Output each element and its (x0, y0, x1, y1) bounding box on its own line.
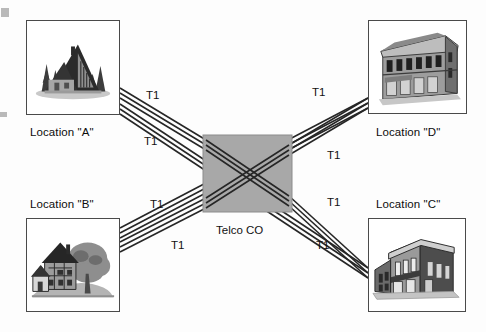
t1-label-a-c-2: T1 (316, 239, 329, 251)
classical-office-building-icon (369, 21, 466, 113)
scan-artifact-top (1, 8, 9, 17)
t1-label-hub-d: T1 (312, 86, 325, 98)
t1-label-b-hub: T1 (150, 198, 163, 210)
location-a-box[interactable] (26, 20, 120, 115)
cottage-with-tree-icon (27, 219, 119, 311)
location-b-box[interactable] (26, 218, 120, 312)
t1-label-a-hub: T1 (146, 89, 159, 101)
t1-label-hub-c: T1 (327, 196, 340, 208)
location-d-label: Location "D" (376, 126, 440, 138)
telco-co-label: Telco CO (216, 224, 263, 236)
commercial-storefront-building-icon (369, 219, 465, 311)
scan-artifact-bottom (0, 112, 7, 117)
location-c-box[interactable] (368, 218, 466, 312)
t1-label-a-c: T1 (144, 135, 157, 147)
diagram-canvas: Telco CO (0, 0, 486, 332)
t1-label-b-d-2: T1 (171, 239, 184, 251)
location-a-label: Location "A" (30, 126, 94, 138)
location-d-box[interactable] (368, 20, 467, 114)
location-b-label: Location "B" (30, 198, 94, 210)
t1-label-b-d: T1 (327, 149, 340, 161)
house-a-frame-building-icon (27, 21, 119, 114)
location-c-label: Location "C" (376, 198, 440, 210)
